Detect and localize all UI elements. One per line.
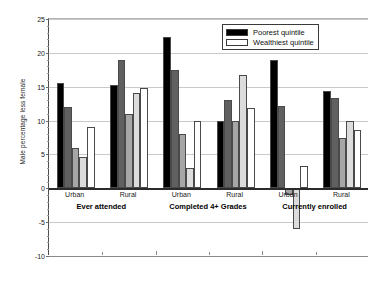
x-axis-separator-minor (316, 252, 317, 255)
y-minor-tick (47, 46, 49, 47)
bar (118, 60, 126, 189)
x-axis-separator (156, 251, 157, 255)
legend-label-poorest: Poorest quintile (253, 28, 305, 37)
bar (300, 166, 308, 188)
gridline-20 (49, 53, 368, 54)
bar (323, 91, 331, 188)
y-tick-label--5: -5 (39, 219, 45, 226)
bar (354, 130, 362, 188)
y-tick-label-25: 25 (37, 16, 45, 23)
y-tick-mark--5 (46, 222, 49, 223)
bar (194, 121, 202, 189)
y-minor-tick (47, 168, 49, 169)
bar (133, 93, 141, 188)
bar (270, 60, 278, 189)
plot-area: 2520151050-5-10 (48, 18, 368, 255)
y-tick-label-15: 15 (37, 83, 45, 90)
y-minor-tick (47, 127, 49, 128)
y-tick-label-0: 0 (41, 185, 45, 192)
bar (346, 121, 354, 189)
y-tick-mark-5 (46, 154, 49, 155)
y-tick-label-5: 5 (41, 151, 45, 158)
x-axis-separator-minor (102, 252, 103, 255)
gridline-10 (49, 121, 368, 122)
y-tick-mark-10 (46, 121, 49, 122)
legend-swatch-wealthiest (226, 39, 248, 46)
y-minor-tick (47, 148, 49, 149)
y-minor-tick (47, 134, 49, 135)
y-tick-mark-25 (46, 19, 49, 20)
legend-item-wealthiest: Wealthiest quintile (226, 37, 314, 47)
x-axis-separator (262, 251, 263, 255)
zero-axis-line (49, 188, 368, 190)
y-minor-tick (47, 114, 49, 115)
y-tick-mark--10 (46, 256, 49, 257)
bar (171, 70, 179, 189)
gridline-15 (49, 87, 368, 88)
x-axis-separator-minor (209, 252, 210, 255)
y-axis-title: Male percentage less female (19, 52, 26, 192)
y-minor-tick (47, 236, 49, 237)
legend-item-poorest: Poorest quintile (226, 27, 314, 37)
chart-figure: Male percentage less female 2520151050-5… (0, 0, 380, 288)
y-tick-label-10: 10 (37, 117, 45, 124)
legend-swatch-poorest (226, 29, 248, 36)
y-minor-tick (47, 66, 49, 67)
bar (87, 127, 95, 188)
chart-legend: Poorest quintile Wealthiest quintile (222, 24, 319, 50)
bar (186, 168, 194, 188)
y-minor-tick (47, 39, 49, 40)
bar (247, 108, 255, 188)
bar (331, 98, 339, 188)
bar (217, 121, 225, 189)
y-minor-tick (47, 161, 49, 162)
gridline-25 (49, 19, 368, 20)
y-minor-tick (47, 249, 49, 250)
gridline--10 (49, 256, 368, 257)
y-minor-tick (47, 33, 49, 34)
y-tick-label--10: -10 (35, 253, 45, 260)
gridline--5 (49, 222, 368, 223)
bar (140, 88, 148, 188)
legend-label-wealthiest: Wealthiest quintile (253, 38, 314, 47)
y-minor-tick (47, 73, 49, 74)
gridline-5 (49, 154, 368, 155)
bar (125, 114, 133, 188)
y-minor-tick (47, 215, 49, 216)
y-tick-label-20: 20 (37, 49, 45, 56)
bar (163, 37, 171, 188)
bar (64, 107, 72, 188)
y-tick-mark-15 (46, 87, 49, 88)
bar (239, 75, 247, 188)
bar (72, 148, 80, 189)
y-minor-tick (47, 60, 49, 61)
y-minor-tick (47, 100, 49, 101)
bar (293, 188, 301, 229)
y-minor-tick (47, 229, 49, 230)
bar (224, 100, 232, 188)
y-minor-tick (47, 195, 49, 196)
bar (57, 83, 65, 188)
y-minor-tick (47, 242, 49, 243)
y-tick-mark-20 (46, 53, 49, 54)
bar (278, 106, 286, 189)
y-minor-tick (47, 93, 49, 94)
y-minor-tick (47, 202, 49, 203)
bar (179, 134, 187, 188)
y-minor-tick (47, 26, 49, 27)
y-minor-tick (47, 141, 49, 142)
y-minor-tick (47, 107, 49, 108)
y-minor-tick (47, 182, 49, 183)
bar (79, 157, 87, 188)
y-minor-tick (47, 209, 49, 210)
bar (110, 85, 118, 189)
y-minor-tick (47, 80, 49, 81)
bar (339, 138, 347, 189)
bar (232, 121, 240, 189)
y-minor-tick (47, 175, 49, 176)
